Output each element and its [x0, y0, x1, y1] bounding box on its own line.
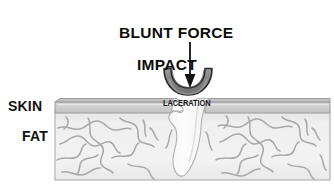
label-fat: FAT: [22, 129, 48, 144]
title-line-2: IMPACT: [0, 57, 334, 73]
figure-title: BLUNT FORCE IMPACT: [0, 9, 334, 106]
label-laceration: LACERATION: [163, 99, 211, 108]
label-skin: SKIN: [8, 99, 42, 114]
title-line-1: BLUNT FORCE: [119, 24, 233, 41]
figure-canvas: BLUNT FORCE IMPACT SKIN FAT LACERATION: [0, 0, 334, 193]
